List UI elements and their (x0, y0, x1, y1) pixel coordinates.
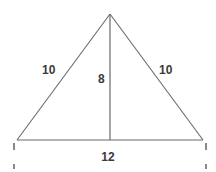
triangle-left-side-line (17, 14, 110, 140)
left-side-length-label: 10 (42, 64, 56, 76)
altitude-length-label: 8 (98, 73, 105, 85)
triangle-right-side-line (110, 14, 203, 140)
base-length-label: 12 (0, 150, 216, 164)
right-side-length-label: 10 (159, 64, 173, 76)
triangle-figure: 10 10 8 12 (0, 0, 216, 172)
triangle-svg (0, 0, 216, 172)
